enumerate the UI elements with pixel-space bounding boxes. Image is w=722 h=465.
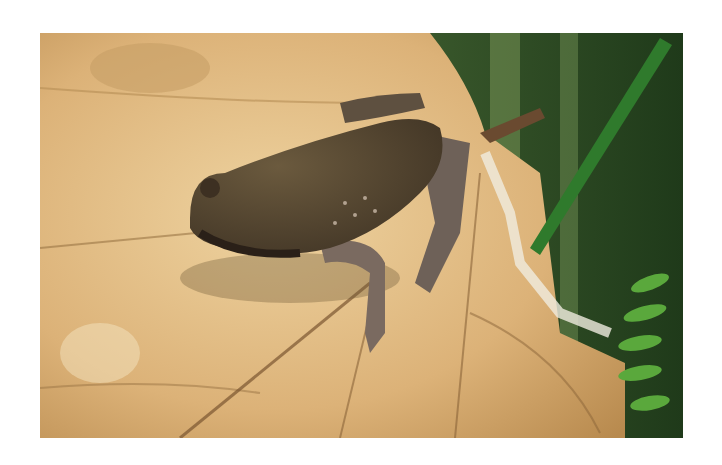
frog-photo (40, 33, 683, 438)
frog-eye (200, 178, 220, 198)
photo-canvas (40, 33, 683, 438)
